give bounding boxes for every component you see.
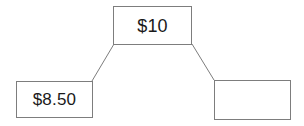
node-root[interactable]: $10 [113, 6, 192, 45]
node-left-child[interactable]: $8.50 [16, 81, 93, 118]
node-left-child-label: $8.50 [33, 91, 77, 108]
node-right-child[interactable] [214, 80, 291, 120]
node-root-label: $10 [137, 17, 168, 35]
connector-root-to-left [92, 44, 114, 81]
connector-root-to-right [192, 44, 214, 80]
diagram-canvas: $10 $8.50 [0, 0, 304, 126]
